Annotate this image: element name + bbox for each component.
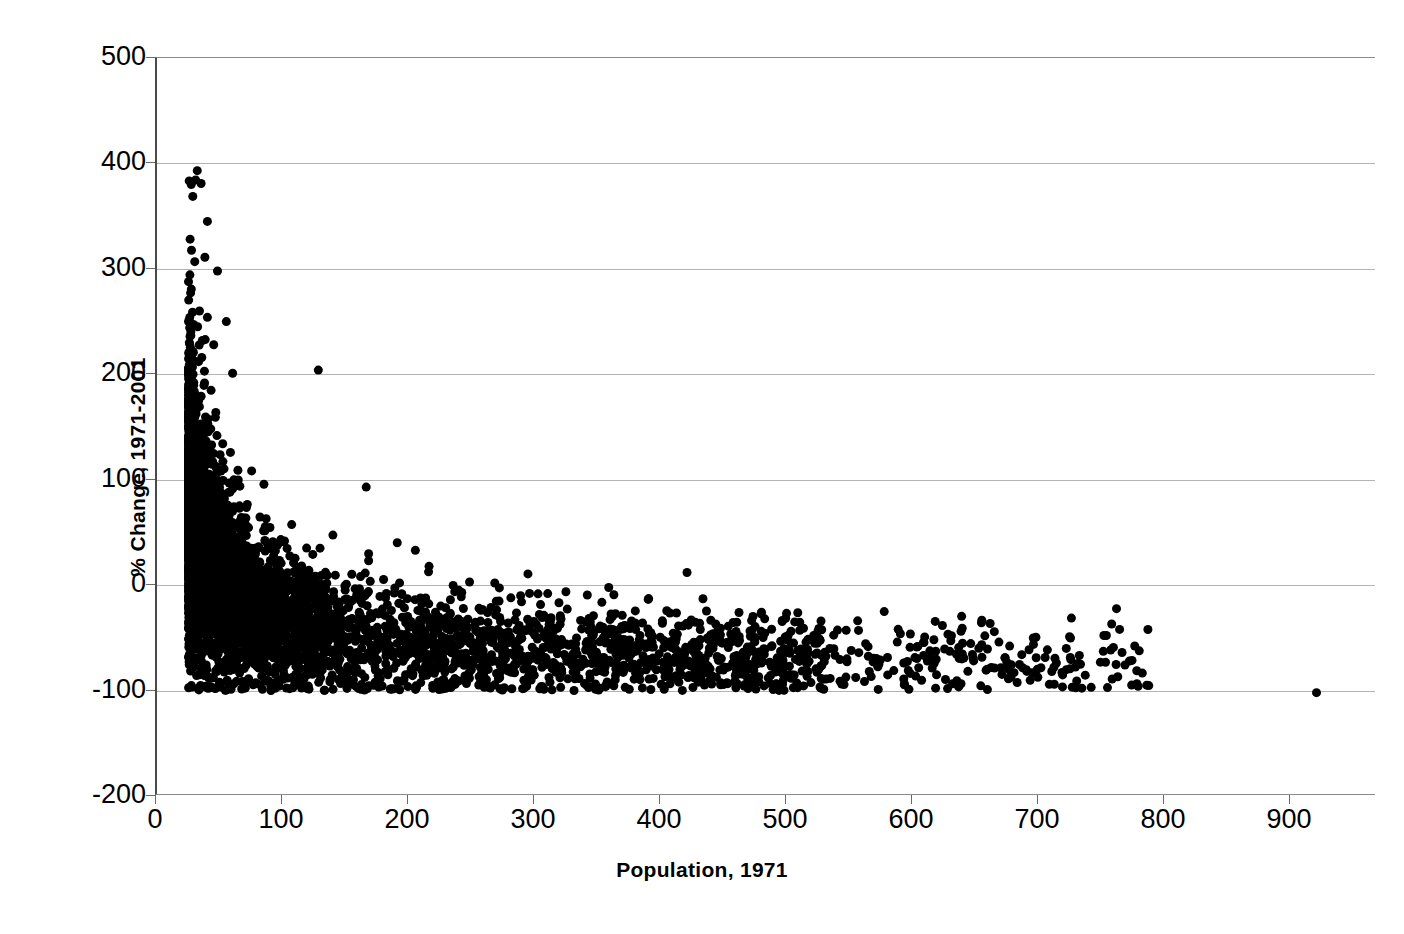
y-tick-label-300: 300 bbox=[101, 254, 146, 281]
y-tick-label-500: 500 bbox=[101, 43, 146, 70]
y-axis-title: % Change, 1971-2001 bbox=[126, 357, 150, 576]
y-tick-mark-0 bbox=[146, 584, 155, 585]
x-tick-mark-200 bbox=[407, 795, 408, 804]
y-tick-mark-400 bbox=[146, 162, 155, 163]
x-tick-label-500: 500 bbox=[745, 806, 825, 833]
y-tick-mark-300 bbox=[146, 268, 155, 269]
y-tick-mark-500 bbox=[146, 57, 155, 58]
x-tick-label-200: 200 bbox=[367, 806, 447, 833]
y-tick-label-400: 400 bbox=[101, 148, 146, 175]
x-tick-label-600: 600 bbox=[871, 806, 951, 833]
x-tick-mark-700 bbox=[1037, 795, 1038, 804]
x-tick-label-400: 400 bbox=[619, 806, 699, 833]
y-tick-mark--100 bbox=[146, 690, 155, 691]
x-tick-mark-500 bbox=[785, 795, 786, 804]
x-tick-mark-300 bbox=[533, 795, 534, 804]
x-tick-mark-400 bbox=[659, 795, 660, 804]
x-tick-mark-100 bbox=[281, 795, 282, 804]
x-tick-mark-900 bbox=[1289, 795, 1290, 804]
x-tick-label-300: 300 bbox=[493, 806, 573, 833]
plot-area bbox=[155, 57, 1375, 795]
x-tick-mark-600 bbox=[911, 795, 912, 804]
x-tick-mark-800 bbox=[1163, 795, 1164, 804]
y-tick-mark--200 bbox=[146, 795, 155, 796]
x-tick-label-0: 0 bbox=[115, 806, 195, 833]
x-axis-title: Population, 1971 bbox=[0, 858, 1404, 882]
y-tick-label--200: -200 bbox=[92, 781, 146, 808]
x-tick-label-100: 100 bbox=[241, 806, 321, 833]
x-tick-mark-0 bbox=[155, 795, 156, 804]
x-tick-label-900: 900 bbox=[1249, 806, 1329, 833]
y-tick-label--100: -100 bbox=[92, 676, 146, 703]
scatter-chart: 5004003002001000-100-200 010020030040050… bbox=[0, 0, 1404, 934]
scatter-points-layer bbox=[157, 58, 1375, 795]
x-tick-label-700: 700 bbox=[997, 806, 1077, 833]
x-tick-label-800: 800 bbox=[1123, 806, 1203, 833]
